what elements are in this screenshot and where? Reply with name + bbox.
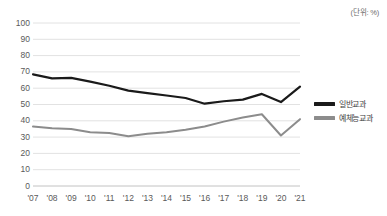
x-axis-tick-label: '07 xyxy=(27,194,38,203)
y-axis-tick-label: 70 xyxy=(4,67,30,76)
y-axis-tick-label: 30 xyxy=(4,133,30,142)
y-axis-tick-label: 100 xyxy=(4,19,30,28)
legend-item-1[interactable]: 일반교과 xyxy=(314,97,387,110)
legend-swatch-icon xyxy=(314,102,335,106)
x-axis-tick-label: '10 xyxy=(85,194,96,203)
chart-container: (단위: %) 1009080706050403020100 '07'08'09… xyxy=(0,0,387,216)
y-axis-tick-label: 0 xyxy=(4,182,30,191)
y-axis-tick-label: 60 xyxy=(4,84,30,93)
x-axis-tick-label: '12 xyxy=(123,194,134,203)
x-axis-tick-label: '16 xyxy=(199,194,210,203)
x-axis-tick-label: '14 xyxy=(161,194,172,203)
x-axis-tick-label: '11 xyxy=(104,194,114,203)
x-axis-tick-label: '15 xyxy=(180,194,191,203)
x-axis-tick-label: '19 xyxy=(256,194,267,203)
plot-svg xyxy=(0,0,310,216)
y-axis-tick-label: 80 xyxy=(4,51,30,60)
y-axis-tick-label: 90 xyxy=(4,35,30,44)
x-axis-tick-label: '17 xyxy=(218,194,229,203)
y-axis-tick-label: 40 xyxy=(4,116,30,125)
legend-swatch-icon xyxy=(314,116,335,120)
y-axis-tick-label: 20 xyxy=(4,149,30,158)
legend-item-2[interactable]: 예체능교과 xyxy=(314,111,387,124)
series-line-1 xyxy=(33,74,300,103)
x-axis-tick-label: '18 xyxy=(237,194,248,203)
series-line-2 xyxy=(33,114,300,136)
x-axis-tick-label: '20 xyxy=(275,194,286,203)
x-axis-tick-label: '13 xyxy=(142,194,153,203)
series-lines xyxy=(33,74,300,136)
chart-legend: 일반교과예체능교과 xyxy=(314,97,387,125)
y-axis-ticks: 1009080706050403020100 xyxy=(0,0,30,216)
unit-note: (단위: %) xyxy=(351,6,379,17)
gridlines xyxy=(33,23,300,186)
y-axis-tick-label: 10 xyxy=(4,165,30,174)
legend-item-label: 예체능교과 xyxy=(339,112,373,123)
plot-area xyxy=(0,0,310,216)
y-axis-tick-label: 50 xyxy=(4,100,30,109)
legend-item-label: 일반교과 xyxy=(339,98,366,109)
x-axis-tick-label: '08 xyxy=(47,194,58,203)
x-axis-ticks: '07'08'09'10'11'12'13'14'15'16'17'18'19'… xyxy=(33,190,300,210)
x-axis-tick-label: '21 xyxy=(294,194,305,203)
x-axis-tick-label: '09 xyxy=(66,194,77,203)
